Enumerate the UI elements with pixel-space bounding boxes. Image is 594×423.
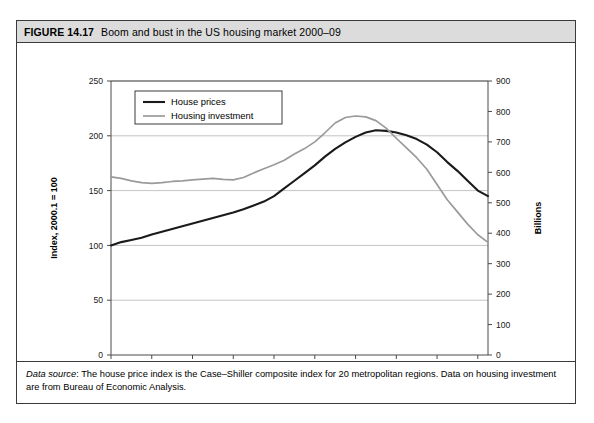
- chart-plot-area: 0501001502002500100200300400500600700800…: [17, 43, 575, 361]
- y-axis-title-right: Billions: [533, 202, 543, 235]
- y-tick-label-left: 0: [98, 350, 103, 360]
- y-tick-label-right: 900: [496, 76, 511, 86]
- y-tick-label-left: 100: [89, 241, 104, 251]
- footnote: Data source: The house price index is th…: [26, 368, 566, 393]
- legend-label-1: House prices: [171, 96, 226, 107]
- y-tick-label-right: 400: [496, 228, 511, 238]
- figure-card: FIGURE 14.17 Boom and bust in the US hou…: [16, 20, 576, 404]
- y-tick-label-right: 300: [496, 259, 511, 269]
- line-chart: 0501001502002500100200300400500600700800…: [17, 43, 575, 361]
- series-line-house-prices: [111, 130, 488, 245]
- y-tick-label-left: 150: [89, 186, 104, 196]
- y-tick-label-right: 800: [496, 107, 511, 117]
- figure-footer: Data source: The house price index is th…: [17, 361, 575, 404]
- figure-title: Boom and bust in the US housing market 2…: [101, 26, 341, 38]
- y-tick-label-right: 500: [496, 198, 511, 208]
- footnote-text: : The house price index is the Case–Shil…: [26, 369, 556, 392]
- figure-header: FIGURE 14.17 Boom and bust in the US hou…: [17, 21, 575, 43]
- y-tick-label-right: 700: [496, 137, 511, 147]
- y-tick-label-right: 0: [496, 350, 501, 360]
- legend-label-2: Housing investment: [171, 110, 254, 121]
- footnote-label: Data source: [26, 369, 76, 379]
- y-tick-label-right: 100: [496, 320, 511, 330]
- y-tick-label-right: 600: [496, 168, 511, 178]
- figure-number: FIGURE 14.17: [24, 26, 94, 38]
- y-tick-label-left: 200: [89, 131, 104, 141]
- y-tick-label-left: 50: [93, 295, 103, 305]
- y-axis-title-left: Index, 2000.1 = 100: [49, 177, 59, 258]
- series-line-housing-investment: [111, 116, 488, 242]
- y-tick-label-left: 250: [89, 76, 104, 86]
- y-tick-label-right: 200: [496, 289, 511, 299]
